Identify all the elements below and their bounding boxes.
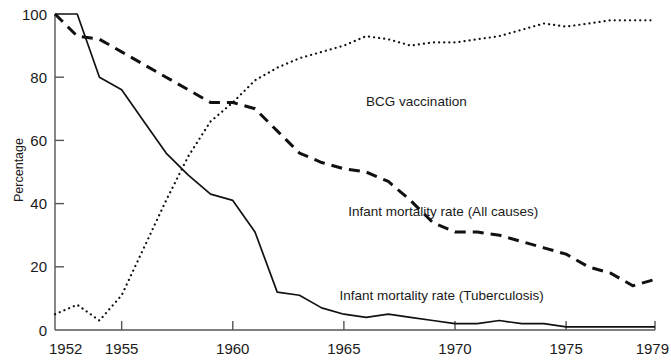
y-tick-label: 20: [30, 258, 47, 275]
y-tick-label: 40: [30, 195, 47, 212]
x-tick-label: 1955: [105, 340, 138, 357]
chart-canvas: 020406080100 Percentage 1952195519601965…: [0, 0, 671, 363]
series-label-2: Infant mortality rate (Tuberculosis): [339, 288, 543, 303]
x-tick-label: 1952: [49, 340, 82, 357]
series-line-1: [55, 14, 655, 286]
y-tick-label: 60: [30, 132, 47, 149]
series-label-0: BCG vaccination: [366, 94, 467, 109]
series-annotation-layer: BCG vaccinationInfant mortality rate (Al…: [339, 94, 543, 303]
y-axis: 020406080100 Percentage: [12, 6, 64, 339]
y-tick-label: 80: [30, 69, 47, 86]
x-axis-ticks: [122, 321, 655, 330]
chart-figure: 020406080100 Percentage 1952195519601965…: [0, 0, 671, 363]
series-layer: [55, 14, 655, 327]
x-tick-label: 1979: [636, 340, 669, 357]
y-axis-ticks: [55, 77, 64, 267]
y-axis-title: Percentage: [12, 138, 26, 202]
x-tick-label: 1970: [438, 340, 471, 357]
x-axis-tick-labels: 1952195519601965197019751979: [49, 340, 669, 357]
x-tick-label: 1975: [549, 340, 582, 357]
series-label-1: Infant mortality rate (All causes): [348, 204, 538, 219]
x-tick-label: 1960: [216, 340, 249, 357]
y-tick-label: 100: [22, 6, 47, 23]
y-tick-label: 0: [39, 322, 47, 339]
x-tick-label: 1965: [327, 340, 360, 357]
